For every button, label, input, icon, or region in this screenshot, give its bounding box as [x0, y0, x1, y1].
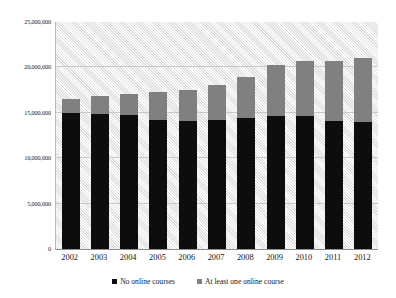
bar-segment-no-online-courses	[237, 118, 255, 249]
bar-segment-at-least-one-online-course	[208, 85, 226, 120]
bar-segment-no-online-courses	[149, 120, 167, 249]
legend-item-label: No online courses	[120, 278, 175, 286]
stacked-bar-chart: 05,000,00010,000,00015,000,00020,000,000…	[0, 0, 396, 298]
legend-swatch-icon	[112, 279, 117, 284]
bar-2002[interactable]	[62, 99, 80, 249]
bar-segment-no-online-courses	[267, 116, 285, 249]
bar-2007[interactable]	[208, 85, 226, 249]
bar-segment-no-online-courses	[179, 121, 197, 249]
plot-area	[55, 22, 378, 250]
bar-segment-at-least-one-online-course	[354, 58, 372, 122]
bar-segment-no-online-courses	[120, 115, 138, 249]
bar-segment-at-least-one-online-course	[179, 90, 197, 121]
bar-segment-at-least-one-online-course	[296, 61, 314, 116]
chart-legend: No online courses At least one online co…	[0, 278, 396, 286]
bar-segment-no-online-courses	[208, 120, 226, 249]
bar-2005[interactable]	[149, 92, 167, 249]
bar-2010[interactable]	[296, 61, 314, 249]
bar-2011[interactable]	[325, 61, 343, 249]
bar-segment-no-online-courses	[354, 122, 372, 249]
bar-2004[interactable]	[120, 94, 138, 249]
legend-item-at-least-one-online-course[interactable]: At least one online course	[197, 278, 284, 286]
bar-segment-at-least-one-online-course	[325, 61, 343, 121]
legend-swatch-icon	[197, 279, 202, 284]
x-axis-tick-label-2012: 2012	[342, 254, 382, 262]
bar-segment-at-least-one-online-course	[237, 77, 255, 117]
bar-2006[interactable]	[179, 90, 197, 249]
y-axis-tick-label: 5,000,000	[0, 201, 51, 207]
y-axis-tick-label: 15,000,000	[0, 110, 51, 116]
bar-segment-at-least-one-online-course	[267, 65, 285, 116]
bar-2003[interactable]	[91, 96, 109, 249]
bar-segment-no-online-courses	[296, 116, 314, 249]
legend-item-label: At least one online course	[205, 278, 284, 286]
y-axis-tick-label: 0	[0, 246, 51, 252]
bar-segment-no-online-courses	[62, 113, 80, 249]
legend-item-no-online-courses[interactable]: No online courses	[112, 278, 175, 286]
bar-segment-no-online-courses	[325, 121, 343, 249]
bar-segment-at-least-one-online-course	[91, 96, 109, 114]
bar-2008[interactable]	[237, 77, 255, 249]
bar-2012[interactable]	[354, 58, 372, 249]
y-axis-tick-label: 10,000,000	[0, 155, 51, 161]
bar-segment-no-online-courses	[91, 114, 109, 249]
bar-2009[interactable]	[267, 65, 285, 249]
y-axis-tick-label: 25,000,000	[0, 19, 51, 25]
bar-segment-at-least-one-online-course	[62, 99, 80, 114]
bar-segment-at-least-one-online-course	[149, 92, 167, 120]
bar-segment-at-least-one-online-course	[120, 94, 138, 115]
y-axis-tick-label: 20,000,000	[0, 64, 51, 70]
